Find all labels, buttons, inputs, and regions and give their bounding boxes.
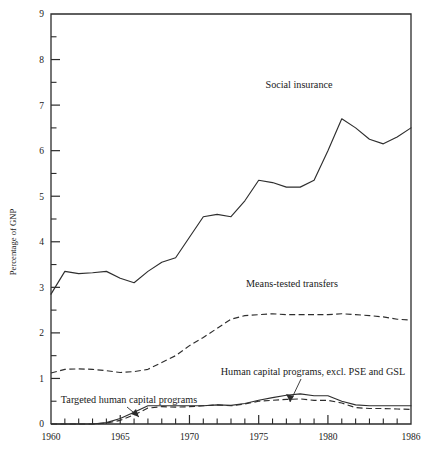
- targeted-human-capital-label: Targeted human capital programs: [61, 394, 197, 405]
- y-tick-label: 8: [39, 55, 44, 65]
- x-tick-label: 1980: [318, 432, 337, 442]
- x-tick-label: 1960: [42, 432, 61, 442]
- means-tested-transfers-label: Means-tested transfers: [246, 278, 338, 289]
- x-tick-label: 1986: [402, 432, 421, 442]
- y-tick-label: 0: [39, 419, 44, 429]
- line-chart: 0123456789 196019651970197519801986 Perc…: [0, 0, 432, 464]
- social-insurance-label: Social insurance: [265, 79, 333, 90]
- y-tick-label: 9: [39, 9, 44, 19]
- y-tick-label: 3: [39, 283, 44, 293]
- y-axis-title: Percentage of GNP: [8, 209, 18, 276]
- y-tick-label: 1: [39, 374, 44, 384]
- x-tick-label: 1970: [180, 432, 199, 442]
- y-tick-label: 2: [39, 328, 44, 338]
- y-tick-label: 6: [39, 146, 44, 156]
- y-tick-label: 4: [39, 237, 44, 247]
- y-tick-label: 7: [39, 101, 44, 111]
- human-capital-excl-label: Human capital programs, excl. PSE and GS…: [221, 366, 405, 377]
- x-tick-label: 1965: [111, 432, 130, 442]
- y-tick-label: 5: [39, 192, 44, 202]
- chart-container: 0123456789 196019651970197519801986 Perc…: [0, 0, 432, 464]
- x-tick-label: 1975: [249, 432, 268, 442]
